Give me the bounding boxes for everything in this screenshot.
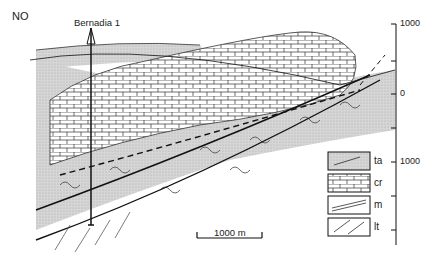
legend-label-ta: ta xyxy=(374,155,382,166)
well-label: Bernadia 1 xyxy=(74,17,120,28)
axis-tick-zero: 0 xyxy=(400,88,405,98)
orientation-label: NO xyxy=(12,10,29,22)
axis-tick-bottom: 1000 xyxy=(400,156,420,166)
scale-bar-label: 1000 m xyxy=(214,227,246,238)
depth-axis xyxy=(391,24,396,245)
legend-label-lt: lt xyxy=(374,221,379,232)
legend-label-m: m xyxy=(374,199,382,210)
axis-tick-top: 1000 xyxy=(400,18,420,28)
legend-label-cr: cr xyxy=(374,177,382,188)
legend-boxes xyxy=(328,152,370,236)
